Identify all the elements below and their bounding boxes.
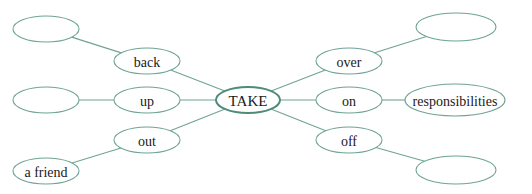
- object-node-over-ellipse: [416, 13, 496, 41]
- edge-out-object: [72, 148, 121, 163]
- edge-take-out: [170, 109, 225, 131]
- particle-node-out-label: out: [138, 134, 156, 149]
- edge-take-over: [271, 70, 325, 91]
- object-node-over: [416, 13, 496, 41]
- particle-node-over-label: over: [337, 55, 362, 70]
- particle-node-back: back: [114, 48, 180, 74]
- edge-over-object: [375, 36, 427, 52]
- object-node-back-ellipse: [13, 16, 79, 42]
- particle-node-out: out: [114, 127, 180, 153]
- object-node-out: a friend: [13, 158, 79, 184]
- center-node-take: TAKE: [216, 87, 280, 113]
- object-node-out-label: a friend: [24, 165, 67, 180]
- particle-node-on-label: on: [342, 94, 356, 109]
- object-node-on-label: responsibilities: [413, 94, 498, 109]
- particle-node-off: off: [316, 127, 382, 153]
- center-node-take-label: TAKE: [229, 93, 268, 109]
- particle-node-up: up: [114, 87, 180, 113]
- particle-node-off-label: off: [341, 134, 357, 149]
- object-node-up-ellipse: [13, 87, 79, 113]
- phrasal-verb-diagram: TAKEbackupoutoveronoffa friendresponsibi…: [0, 0, 532, 194]
- particle-node-back-label: back: [134, 55, 160, 70]
- particle-node-up-label: up: [140, 94, 154, 109]
- edge-back-object: [72, 37, 122, 53]
- edge-take-back: [171, 70, 225, 91]
- particle-node-over: over: [316, 48, 382, 74]
- object-node-up: [13, 87, 79, 113]
- object-node-on: responsibilities: [405, 84, 505, 116]
- particle-node-on: on: [316, 87, 382, 113]
- object-node-off: [416, 156, 496, 184]
- object-node-off-ellipse: [416, 156, 496, 184]
- edge-take-off: [271, 109, 326, 131]
- object-node-back: [13, 16, 79, 42]
- edge-off-object: [376, 148, 425, 162]
